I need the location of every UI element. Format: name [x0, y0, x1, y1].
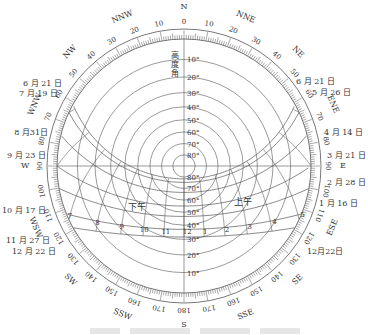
azimuth-tick	[74, 95, 77, 97]
azimuth-tick	[242, 279, 244, 283]
azimuth-tick	[79, 87, 82, 89]
azimuth-tick	[249, 275, 251, 278]
azimuth-tick	[283, 246, 286, 249]
azimuth-tick	[131, 46, 133, 50]
azimuth-tick	[133, 283, 135, 287]
azimuth-tick	[289, 237, 292, 239]
date-label-right: 4 月 14 日	[324, 128, 363, 137]
azimuth-tick	[117, 275, 119, 278]
azimuth-tick	[195, 293, 196, 299]
azimuth-tick	[66, 222, 70, 224]
azimuth-tick	[52, 154, 58, 155]
altitude-label: 50°	[187, 117, 199, 125]
azimuth-tick	[55, 141, 59, 142]
azimuth-tick	[137, 44, 138, 48]
azimuth-tick	[272, 72, 275, 75]
azimuth-tick	[244, 50, 246, 54]
azimuth-tick	[155, 38, 156, 42]
azimuth-tick	[80, 79, 87, 85]
azimuth-tick	[230, 44, 231, 48]
azimuth-tick	[223, 41, 224, 45]
azimuth-tick	[103, 63, 105, 66]
azimuth-tick	[95, 70, 98, 73]
azimuth-tick	[115, 55, 117, 58]
azimuth-tick	[288, 90, 293, 93]
azimuth-tick	[281, 248, 288, 254]
altitude-axis-label: 高	[171, 50, 179, 60]
date-label-left: 9 月 23 日	[7, 151, 46, 160]
azimuth-tick	[264, 265, 267, 268]
date-label-left: 6 月 21 日	[23, 79, 62, 88]
azimuth-tick	[116, 48, 121, 56]
azimuth-label: 170	[152, 303, 167, 313]
azimuth-tick	[302, 117, 306, 118]
compass-label-w: W	[21, 161, 30, 170]
azimuth-tick	[137, 285, 138, 289]
compass-label-nne: NNE	[235, 9, 257, 25]
azimuth-tick	[108, 57, 111, 62]
azimuth-tick	[127, 280, 129, 284]
azimuth-tick	[79, 242, 82, 244]
azimuth-tick	[275, 254, 278, 257]
azimuth-tick	[266, 62, 272, 69]
azimuth-label: 70	[43, 111, 54, 122]
azimuth-tick	[159, 37, 160, 41]
date-label-right: 2 月 28 日	[327, 178, 366, 187]
azimuth-tick	[120, 51, 122, 54]
azimuth-tick	[148, 288, 149, 292]
azimuth-tick	[292, 233, 295, 235]
sun-path-chart: 0101020203030404050506060707080809090100…	[0, 0, 368, 335]
azimuth-label: 50	[68, 67, 80, 79]
azimuth-tick	[56, 195, 60, 196]
azimuth-tick	[69, 102, 72, 104]
azimuth-tick	[309, 141, 313, 142]
azimuth-tick	[56, 199, 62, 201]
azimuth-tick	[68, 226, 72, 228]
azimuth-tick	[305, 205, 309, 206]
azimuth-tick	[95, 259, 98, 262]
altitude-label: 30°	[187, 90, 199, 98]
date-label-left: 11 月 27 日	[6, 236, 50, 245]
azimuth-tick	[113, 56, 115, 59]
azimuth-tick	[56, 132, 62, 134]
hour-label-morning: 11	[161, 228, 170, 236]
azimuth-tick	[217, 38, 219, 44]
azimuth-tick	[311, 177, 317, 178]
azimuth-tick	[244, 278, 246, 282]
azimuth-tick	[107, 60, 109, 63]
altitude-axis-label: 角	[171, 68, 179, 78]
azimuth-tick	[299, 220, 304, 223]
azimuth-tick	[246, 277, 248, 280]
azimuth-tick	[278, 251, 281, 254]
azimuth-label: 10	[154, 19, 164, 28]
azimuth-tick	[122, 278, 124, 282]
azimuth-tick	[78, 89, 81, 91]
azimuth-tick	[128, 281, 131, 286]
azimuth-tick	[259, 269, 261, 272]
azimuth-tick	[294, 230, 302, 235]
azimuth-tick	[306, 130, 310, 131]
altitude-axis-label: 度	[171, 59, 179, 69]
azimuth-tick	[58, 201, 62, 202]
azimuth-tick	[58, 130, 62, 131]
azimuth-tick	[98, 67, 101, 70]
azimuth-tick	[56, 137, 60, 138]
azimuth-tick	[281, 79, 288, 85]
azimuth-tick	[88, 253, 91, 256]
altitude-label: 40°	[187, 104, 199, 112]
azimuth-tick	[305, 128, 309, 129]
azimuth-tick	[122, 50, 124, 54]
azimuth-tick	[62, 119, 66, 120]
azimuth-tick	[234, 45, 236, 49]
azimuth-tick	[297, 224, 301, 226]
azimuth-tick	[240, 280, 242, 284]
azimuth-tick	[221, 41, 222, 45]
azimuth-label: 160	[127, 295, 142, 307]
azimuth-tick	[225, 42, 226, 46]
azimuth-tick	[57, 197, 61, 198]
azimuth-tick	[249, 54, 251, 57]
hour-label-morning: 9	[119, 223, 123, 231]
azimuth-tick	[238, 45, 241, 50]
azimuth-tick	[131, 282, 133, 286]
azimuth-label: 80	[37, 136, 46, 146]
